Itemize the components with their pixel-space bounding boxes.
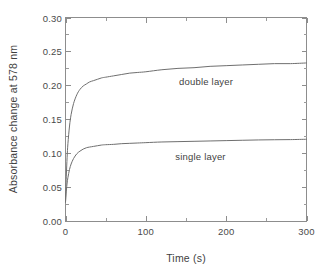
y-tick-label: 0.30 bbox=[26, 12, 62, 23]
y-tick-label: 0.15 bbox=[26, 114, 62, 125]
y-tick-label: 0.05 bbox=[26, 182, 62, 193]
tick-marks bbox=[66, 18, 308, 222]
series-label-single-layer: single layer bbox=[175, 150, 225, 161]
plot-frame bbox=[66, 18, 307, 222]
x-tick-label: 100 bbox=[138, 226, 154, 237]
y-tick-label: 0.20 bbox=[26, 80, 62, 91]
y-tick-label: 0.25 bbox=[26, 46, 62, 57]
x-tick-label: 200 bbox=[218, 226, 234, 237]
y-tick-label: 0.00 bbox=[26, 216, 62, 227]
chart-figure: 0.000.050.100.150.200.250.30 0100200300 … bbox=[0, 0, 327, 276]
plot-canvas bbox=[0, 0, 327, 276]
x-tick-label: 300 bbox=[298, 226, 314, 237]
series-label-double-layer: double layer bbox=[179, 75, 233, 86]
x-tick-label: 0 bbox=[63, 226, 68, 237]
y-axis-title: Absorbance change at 578 nm bbox=[7, 45, 19, 193]
series-curve-single-layer bbox=[66, 139, 307, 202]
x-axis-title: Time (s) bbox=[166, 252, 206, 264]
y-tick-label: 0.10 bbox=[26, 148, 62, 159]
